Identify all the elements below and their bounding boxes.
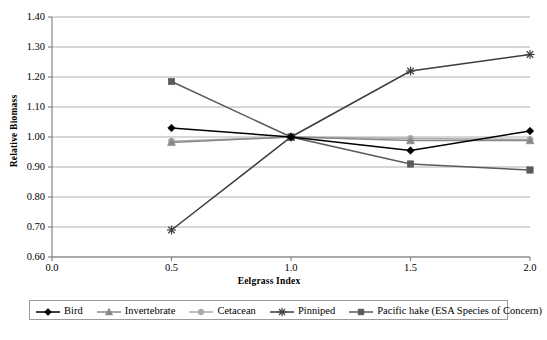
legend-entry[interactable]: Cetacean	[188, 304, 255, 316]
legend-entry[interactable]: Invertebrate	[96, 304, 176, 316]
data-point-diamond	[526, 127, 534, 135]
data-point-square	[358, 309, 364, 315]
data-point-square	[527, 167, 533, 173]
legend-marker-square-icon	[348, 304, 374, 316]
legend-label: Pacific hake (ESA Species of Concern)	[377, 305, 542, 316]
data-point-diamond	[407, 147, 415, 155]
data-point-diamond	[168, 124, 176, 132]
data-series-layer	[167, 50, 535, 235]
legend-marker-triangle-icon	[96, 304, 122, 316]
data-point-asterisk	[406, 67, 415, 76]
legend-label: Pinniped	[298, 305, 335, 316]
legend-marker-circle-icon	[188, 304, 214, 316]
legend-label: Cetacean	[217, 305, 255, 316]
data-point-square	[407, 161, 413, 167]
series-pacific	[168, 78, 533, 173]
legend-label: Bird	[64, 305, 83, 316]
legend-label: Invertebrate	[125, 305, 176, 316]
series-pinniped	[167, 50, 535, 235]
data-point-circle	[198, 309, 204, 315]
legend-marker-asterisk-icon	[269, 304, 295, 316]
data-point-square	[168, 78, 174, 84]
legend-entry[interactable]: Pinniped	[269, 304, 335, 316]
data-point-asterisk	[167, 226, 176, 235]
chart-legend: BirdInvertebrateCetaceanPinnipedPacific …	[29, 300, 508, 320]
legend-marker-diamond-icon	[35, 304, 61, 316]
legend-entry[interactable]: Pacific hake (ESA Species of Concern)	[348, 304, 542, 316]
legend-entry[interactable]: Bird	[35, 304, 83, 316]
data-point-asterisk	[278, 308, 286, 316]
data-point-diamond	[45, 309, 52, 316]
data-point-asterisk	[526, 50, 535, 59]
